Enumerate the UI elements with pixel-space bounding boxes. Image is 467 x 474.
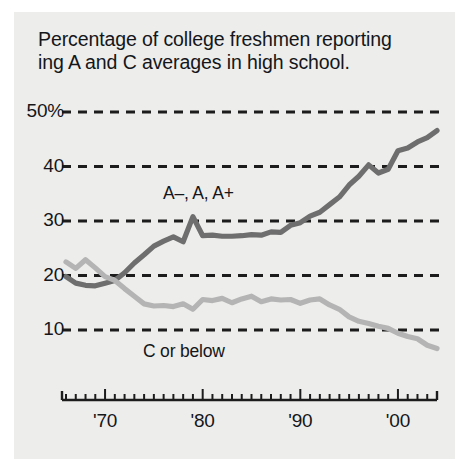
y-axis-label-20: 20 — [20, 264, 64, 286]
y-axis-label-30: 30 — [20, 209, 64, 231]
y-axis-label-50: 50% — [20, 100, 64, 122]
x-axis-label-2000: '00 — [368, 410, 428, 432]
x-axis-label-1990: '90 — [270, 410, 330, 432]
x-axis-label-1980: '80 — [173, 410, 233, 432]
y-axis-label-40: 40 — [20, 155, 64, 177]
chart-figure: Percentage of college freshmen reporting… — [0, 0, 467, 474]
x-axis-label-1970: '70 — [75, 410, 135, 432]
series-label-a-grades: A–, A, A+ — [163, 183, 234, 204]
y-axis-label-10: 10 — [20, 318, 64, 340]
series-label-c-grades: C or below — [143, 341, 225, 362]
series-line-a-grades — [66, 131, 437, 286]
chart-plot-area — [0, 0, 467, 474]
